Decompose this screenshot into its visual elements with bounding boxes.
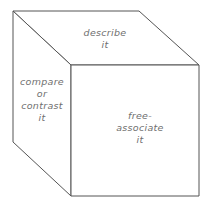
top-face-label: describe it xyxy=(70,27,140,51)
front-face-label: free- associate it xyxy=(100,110,180,146)
left-face-label: compare or contrast it xyxy=(12,76,72,124)
